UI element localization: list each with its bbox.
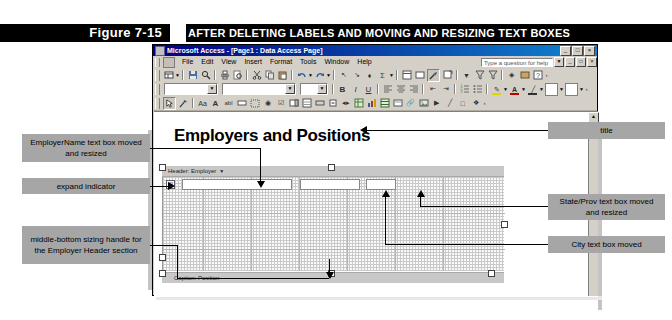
check-box-icon[interactable]: ☑ — [275, 98, 286, 109]
section-handle-topmiddle[interactable] — [328, 164, 335, 171]
border-color-icon[interactable] — [565, 83, 578, 96]
sorting-grouping-icon[interactable] — [414, 70, 425, 81]
section-handle-topleft[interactable] — [159, 164, 166, 171]
expand-icon[interactable] — [327, 98, 338, 109]
filter-by-form-icon[interactable]: ▼ — [461, 70, 472, 81]
textbox-employername[interactable] — [182, 179, 292, 190]
menu-item-format[interactable]: Format — [266, 56, 296, 68]
bold-icon[interactable]: B — [337, 84, 348, 95]
align-right-icon[interactable] — [408, 84, 419, 95]
standard-toolbar-grip[interactable] — [155, 70, 160, 81]
list-box-icon[interactable] — [301, 98, 312, 109]
record-navigation-icon[interactable]: ◂▸ — [340, 98, 351, 109]
close-button[interactable]: × — [584, 46, 595, 56]
decrease-indent-icon[interactable]: ⇤ — [427, 84, 438, 95]
copy-icon[interactable] — [264, 70, 275, 81]
align-center-icon[interactable] — [395, 84, 406, 95]
mdi-minimize-button[interactable]: _ — [565, 57, 575, 67]
undo-dropdown-caret-icon[interactable]: ▼ — [308, 70, 313, 81]
properties-icon[interactable] — [442, 70, 453, 81]
office-chart-icon[interactable] — [366, 98, 377, 109]
chevron-down-icon[interactable]: ▼ — [219, 168, 224, 174]
undo-icon[interactable] — [296, 70, 307, 81]
align-left-icon[interactable] — [382, 84, 393, 95]
mdi-restore-button[interactable]: □ — [576, 57, 586, 67]
font-size-combo[interactable]: ▼ — [300, 83, 328, 95]
redo-icon[interactable] — [314, 70, 325, 81]
remove-filter-icon[interactable] — [487, 70, 498, 81]
autosum-icon[interactable]: Σ — [377, 70, 388, 81]
section-handle-right[interactable] — [501, 221, 508, 228]
maximize-button[interactable]: □ — [572, 46, 583, 56]
menu-item-file[interactable]: File — [178, 56, 197, 68]
option-button-icon[interactable]: ◉ — [262, 98, 273, 109]
hyperlink-icon[interactable]: ♦ — [364, 70, 375, 81]
mdi-close-button[interactable]: × — [587, 57, 597, 67]
textbox-stateprov[interactable] — [300, 179, 360, 190]
font-combo[interactable]: ▼ — [222, 83, 296, 95]
document-control-icon[interactable] — [163, 57, 175, 68]
print-preview-icon[interactable] — [232, 70, 243, 81]
view-icon[interactable] — [163, 70, 174, 81]
increase-indent-icon[interactable]: ⇥ — [440, 84, 451, 95]
toolbox-overflow-icon[interactable]: › — [482, 98, 487, 109]
menu-item-window[interactable]: Window — [320, 56, 353, 68]
formatting-toolbar-grip[interactable] — [155, 84, 160, 95]
page-design-surface[interactable]: Employers and Positions Header: Employer… — [154, 111, 598, 297]
more-controls-icon[interactable]: ❖ — [470, 98, 481, 109]
design-grid[interactable] — [162, 177, 504, 271]
option-group-icon[interactable] — [249, 98, 260, 109]
highlight-color-caret-icon[interactable]: ▼ — [503, 84, 508, 95]
dropdown-list-icon[interactable] — [288, 98, 299, 109]
redo-dropdown-caret-icon[interactable]: ▼ — [326, 70, 331, 81]
movie-icon[interactable]: ▶ — [431, 98, 442, 109]
rectangle-icon[interactable]: □ — [457, 98, 468, 109]
cut-icon[interactable] — [251, 70, 262, 81]
office-spreadsheet-icon[interactable] — [379, 98, 390, 109]
text-box-icon[interactable]: abl — [223, 98, 234, 109]
numbered-list-icon[interactable]: 123 — [459, 84, 470, 95]
menu-item-view[interactable]: View — [217, 56, 240, 68]
menubar-grip[interactable] — [155, 58, 160, 67]
bulleted-list-icon[interactable] — [472, 84, 483, 95]
label-icon[interactable]: A — [210, 98, 221, 109]
italic-icon[interactable]: I — [350, 84, 361, 95]
toolbox-icon[interactable] — [427, 69, 440, 82]
textbox-city[interactable] — [366, 179, 396, 190]
minimize-button[interactable]: _ — [560, 46, 571, 56]
scrolling-text-icon[interactable] — [236, 98, 247, 109]
image-hyperlink-icon[interactable] — [418, 98, 429, 109]
menu-item-help[interactable]: Help — [353, 56, 375, 68]
promote-icon[interactable]: ↖ — [338, 70, 349, 81]
font-combo-caret-icon[interactable]: ▼ — [285, 84, 295, 94]
fill-color-icon[interactable] — [545, 83, 558, 96]
toolbar-overflow-icon[interactable]: › — [544, 70, 549, 81]
style-combo-caret-icon[interactable]: ▼ — [207, 84, 217, 94]
hyperlink-icon[interactable]: 🔗 — [405, 98, 416, 109]
toolbox-toolbar-grip[interactable] — [155, 98, 160, 109]
autosum-dropdown-caret-icon[interactable]: ▼ — [389, 70, 394, 81]
underline-icon[interactable]: U — [363, 84, 374, 95]
help-icon[interactable]: ? — [532, 70, 543, 81]
select-objects-icon[interactable] — [163, 97, 176, 110]
help-dropdown-caret-icon[interactable]: ▼ — [554, 57, 564, 67]
command-button-icon[interactable] — [314, 98, 325, 109]
office-pivottable-icon[interactable] — [353, 98, 364, 109]
help-search-input[interactable]: Type a question for help — [481, 58, 553, 67]
menu-item-tools[interactable]: Tools — [296, 56, 320, 68]
demote-icon[interactable]: ↘ — [351, 70, 362, 81]
paste-icon[interactable] — [277, 70, 288, 81]
fill-color-caret-icon[interactable]: ▼ — [559, 84, 564, 95]
view-dropdown-caret-icon[interactable]: ▼ — [175, 70, 180, 81]
font-color-caret-icon[interactable]: ▼ — [521, 84, 526, 95]
bound-span-icon[interactable]: Aa — [197, 98, 208, 109]
filter-by-selection-icon[interactable] — [474, 70, 485, 81]
caption-handle-left[interactable] — [159, 270, 166, 277]
line-color-icon[interactable]: ╱ — [527, 84, 538, 95]
section-handle-bottomleft[interactable] — [159, 254, 166, 261]
control-wizards-icon[interactable] — [178, 98, 189, 109]
menu-item-insert[interactable]: Insert — [240, 56, 266, 68]
line-color-caret-icon[interactable]: ▼ — [539, 84, 544, 95]
page-heading-title[interactable]: Employers and Positions — [174, 126, 370, 146]
microsoft-script-editor-icon[interactable] — [519, 70, 530, 81]
